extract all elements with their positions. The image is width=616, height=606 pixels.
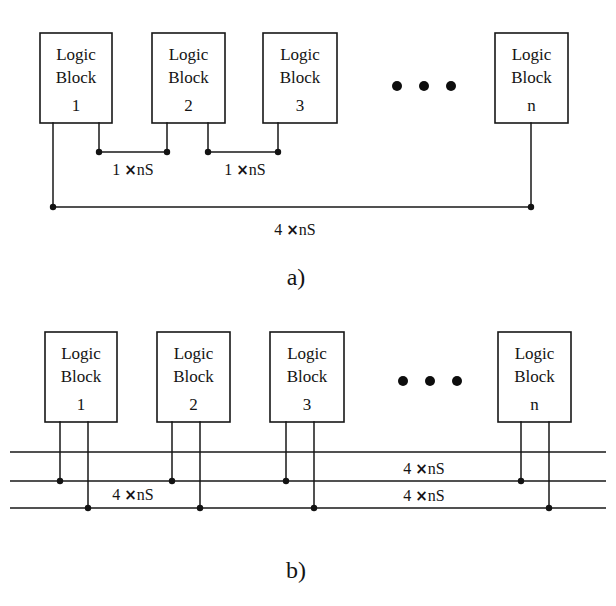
logic-block-b-2[interactable]: Logic Block 2: [157, 332, 230, 422]
logic-block-label-line2: Block: [61, 367, 102, 386]
junction-dot: [57, 478, 63, 484]
bus-label-right-bottom: 4 ×nS: [403, 487, 444, 505]
logic-block-index: 2: [184, 96, 193, 115]
logic-block-label-line2: Block: [511, 68, 552, 87]
logic-block-b-1[interactable]: Logic Block 1: [45, 332, 117, 422]
segment-1-2-label: 1 ×nS: [112, 161, 153, 179]
segment-2-3-label: 1 ×nS: [224, 161, 265, 179]
logic-block-label-line1: Logic: [61, 344, 101, 363]
panel-a: Logic Block 1 Logic Block 2 Logic Block …: [40, 33, 568, 290]
logic-block-index: n: [530, 395, 539, 414]
panel-caption-a: a): [287, 264, 306, 290]
logic-block-label-line1: Logic: [515, 344, 555, 363]
junction-dot: [169, 478, 175, 484]
logic-block-label-line1: Logic: [169, 45, 209, 64]
junction-dot: [164, 149, 170, 155]
logic-block-b-n[interactable]: Logic Block n: [498, 332, 571, 422]
logic-block-index: 2: [189, 395, 198, 414]
logic-block-index: 1: [72, 96, 81, 115]
junction-dot: [85, 505, 91, 511]
diagram-canvas: Logic Block 1 Logic Block 2 Logic Block …: [0, 0, 616, 606]
multiply-icon: ×: [286, 221, 299, 239]
logic-block-a-3[interactable]: Logic Block 3: [263, 33, 337, 123]
bus-label-left-bottom: 4 ×nS: [112, 486, 153, 504]
figure-root: Logic Block 1 Logic Block 2 Logic Block …: [0, 0, 616, 606]
logic-block-a-1[interactable]: Logic Block 1: [40, 33, 112, 123]
junction-dot: [518, 478, 524, 484]
multiply-icon: ×: [236, 161, 249, 179]
logic-block-label-line1: Logic: [287, 344, 327, 363]
junction-dot: [96, 149, 102, 155]
logic-block-a-2[interactable]: Logic Block 2: [152, 33, 225, 123]
panel-caption-b: b): [286, 557, 306, 583]
junction-dot: [528, 204, 534, 210]
logic-block-index: n: [527, 96, 536, 115]
ellipsis-dot-icon: [398, 376, 408, 386]
logic-block-b-3[interactable]: Logic Block 3: [270, 332, 344, 422]
ellipsis-dot-icon: [446, 81, 456, 91]
logic-block-index: 3: [303, 395, 312, 414]
junction-dot: [275, 149, 281, 155]
ellipsis-b: [398, 376, 462, 386]
junction-dot: [50, 204, 56, 210]
logic-block-label-line1: Logic: [512, 45, 552, 64]
multiply-icon: ×: [415, 487, 428, 505]
logic-block-label-line1: Logic: [56, 45, 96, 64]
logic-block-label-line2: Block: [56, 68, 97, 87]
logic-block-index: 1: [77, 395, 86, 414]
bus-label-right-middle: 4 ×nS: [403, 460, 444, 478]
multiply-icon: ×: [124, 161, 137, 179]
ellipsis-a: [392, 81, 456, 91]
ellipsis-dot-icon: [452, 376, 462, 386]
panel-b: Logic Block 1 Logic Block 2 Logic Block …: [10, 332, 606, 583]
logic-block-a-n[interactable]: Logic Block n: [495, 33, 568, 123]
logic-block-index: 3: [296, 96, 305, 115]
logic-block-label-line2: Block: [173, 367, 214, 386]
junction-dot: [205, 149, 211, 155]
multiply-icon: ×: [415, 460, 428, 478]
logic-block-label-line2: Block: [287, 367, 328, 386]
global-bus-label: 4 ×nS: [274, 221, 315, 239]
logic-block-label-line2: Block: [168, 68, 209, 87]
junction-dot: [546, 505, 552, 511]
junction-dot: [311, 505, 317, 511]
ellipsis-dot-icon: [419, 81, 429, 91]
logic-block-label-line2: Block: [514, 367, 555, 386]
multiply-icon: ×: [124, 486, 137, 504]
ellipsis-dot-icon: [425, 376, 435, 386]
ellipsis-dot-icon: [392, 81, 402, 91]
junction-dot: [283, 478, 289, 484]
logic-block-label-line1: Logic: [174, 344, 214, 363]
logic-block-label-line1: Logic: [280, 45, 320, 64]
junction-dot: [197, 505, 203, 511]
logic-block-label-line2: Block: [280, 68, 321, 87]
